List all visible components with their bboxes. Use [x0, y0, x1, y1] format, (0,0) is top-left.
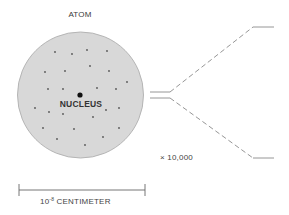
electron-dot — [62, 113, 64, 115]
electron-dot — [89, 65, 91, 67]
scale-bar — [19, 184, 145, 196]
electron-dot — [92, 116, 94, 118]
electron-dot — [73, 128, 75, 130]
electron-dot — [115, 88, 117, 90]
electron-dot — [64, 70, 66, 72]
scale-base: 10 — [40, 197, 49, 206]
electron-dot — [44, 71, 46, 73]
magnification-connector — [150, 27, 274, 158]
dashed-line-upper — [170, 27, 253, 92]
electron-dot — [56, 138, 58, 140]
electron-dot — [96, 87, 98, 89]
electron-dot — [108, 70, 110, 72]
electron-dot — [118, 107, 120, 109]
nucleus-label: NUCLEUS — [58, 99, 104, 109]
electron-dot — [47, 88, 49, 90]
electron-dot — [126, 81, 128, 83]
electron-dot — [105, 109, 107, 111]
electron-dot — [118, 127, 120, 129]
electron-dot — [54, 51, 56, 53]
electron-dot — [48, 111, 50, 113]
electron-dot — [86, 49, 88, 51]
electron-dot — [102, 136, 104, 138]
electron-dot — [106, 50, 108, 52]
electron-dot — [34, 107, 36, 109]
atom-title: ATOM — [67, 10, 93, 19]
dashed-line-lower — [170, 98, 253, 158]
nucleus-dot — [77, 92, 82, 97]
magnification-label: × 10,000 — [160, 153, 193, 162]
electron-dot — [84, 144, 86, 146]
electron-dot — [62, 88, 64, 90]
diagram-canvas — [0, 0, 289, 215]
scale-exponent: -8 — [49, 196, 54, 202]
atom-scale-diagram: ATOM NUCLEUS × 10,000 10-8 CENTIMETER — [0, 0, 289, 215]
electron-dot — [42, 127, 44, 129]
scale-label: 10-8 CENTIMETER — [40, 196, 111, 206]
scale-unit: CENTIMETER — [57, 197, 111, 206]
electron-dot — [71, 53, 73, 55]
